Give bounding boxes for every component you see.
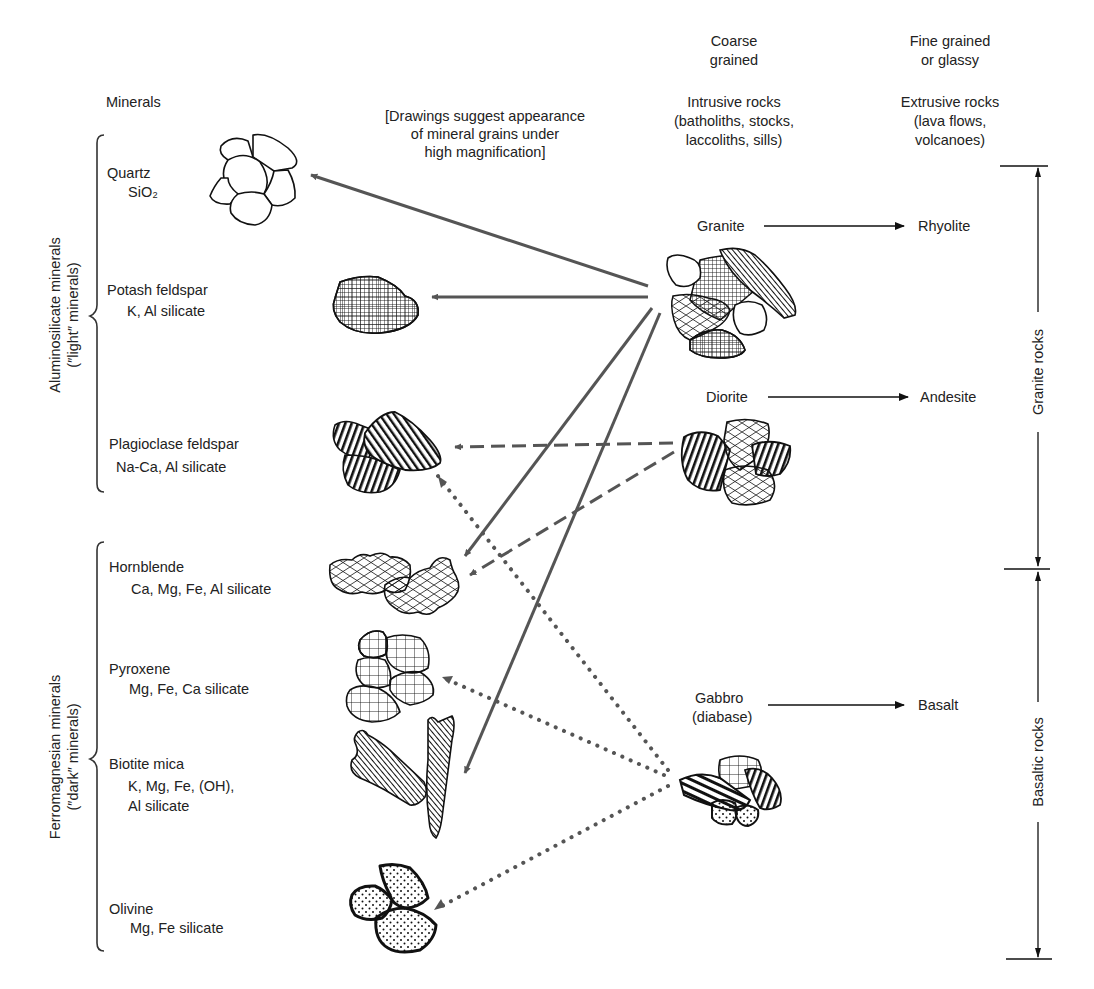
diorite-drawing [682,419,791,504]
svg-text:volcanoes): volcanoes) [915,132,985,148]
svg-text:Potash feldspar: Potash feldspar [107,282,208,298]
svg-text:grained: grained [710,52,758,68]
svg-text:Na-Ca, Al silicate: Na-Ca, Al silicate [116,459,226,475]
svg-text:high magnification]: high magnification] [425,144,546,160]
pyroxene-drawing [346,631,433,722]
svg-text:Intrusive rocks: Intrusive rocks [687,94,780,110]
svg-text:(batholiths, stocks,: (batholiths, stocks, [674,113,794,129]
olivine-drawing [351,864,436,952]
svg-text:Biotite mica: Biotite mica [109,756,185,772]
basaltic-rocks-range: Basaltic rocks [1006,572,1052,959]
biotite-mica-drawing [351,716,454,838]
gabbro-drawing [680,756,781,826]
svg-text:of mineral grains under: of mineral grains under [411,126,559,142]
hornblende-drawing [330,553,459,614]
mineral-olivine: Olivine Mg, Fe silicate [109,901,223,936]
dark-minerals-brace [90,542,104,951]
plagioclase-feldspar-drawing [333,412,440,493]
svg-text:Olivine: Olivine [109,901,153,917]
arrow-diorite-plagioclase [455,443,673,447]
mineral-quartz: Quartz SiO₂ [107,165,158,200]
svg-text:K, Al silicate: K, Al silicate [127,303,205,319]
svg-text:Mg, Fe, Ca silicate: Mg, Fe, Ca silicate [129,681,249,697]
svg-text:(diabase): (diabase) [692,709,752,725]
svg-text:SiO₂: SiO₂ [128,184,158,200]
svg-text:Granite rocks: Granite rocks [1030,329,1046,415]
coarse-grained-header: Coarse grained [710,33,758,68]
light-minerals-group-label: Aluminosilicate minerals (″light″ minera… [47,237,81,393]
minerals-header: Minerals [106,94,161,110]
svg-text:Ferromagnesian minerals: Ferromagnesian minerals [47,675,63,839]
rock-row-diorite: Diorite Andesite [706,389,976,405]
mineral-potash-feldspar: Potash feldspar K, Al silicate [107,282,208,319]
svg-text:Basalt: Basalt [918,697,958,713]
svg-text:Ca, Mg, Fe, Al silicate: Ca, Mg, Fe, Al silicate [131,581,271,597]
svg-text:Quartz: Quartz [107,165,151,181]
svg-text:Fine grained: Fine grained [910,33,991,49]
svg-text:(lava flows,: (lava flows, [914,113,987,129]
granite-rocks-range: Granite rocks [1000,166,1048,566]
quartz-grains-drawing [210,135,297,225]
arrow-granite-quartz [311,175,648,286]
drawings-note: [Drawings suggest appearance of mineral … [385,108,585,160]
svg-text:(″light″ minerals): (″light″ minerals) [65,262,81,367]
mineral-biotite-mica: Biotite mica K, Mg, Fe, (OH), Al silicat… [109,756,234,814]
extrusive-rocks-header: Extrusive rocks (lava flows, volcanoes) [901,94,999,148]
svg-text:Plagioclase feldspar: Plagioclase feldspar [109,436,239,452]
svg-text:(″dark″ minerals): (″dark″ minerals) [65,704,81,811]
svg-text:Rhyolite: Rhyolite [918,218,970,234]
svg-text:Gabbro: Gabbro [695,690,743,706]
potash-feldspar-drawing [333,277,418,334]
svg-text:Basaltic rocks: Basaltic rocks [1030,717,1046,806]
arrow-gabbro-olivine [440,786,668,907]
arrow-granite-hornblende [465,308,652,556]
svg-text:laccoliths, sills): laccoliths, sills) [686,132,783,148]
light-minerals-brace [90,135,104,492]
arrow-granite-biotite [465,313,660,773]
fine-grained-header: Fine grained or glassy [910,33,991,68]
svg-text:Diorite: Diorite [706,389,748,405]
rock-row-granite: Granite Rhyolite [697,218,970,234]
svg-text:Granite: Granite [697,218,745,234]
svg-text:Aluminosilicate minerals: Aluminosilicate minerals [47,237,63,393]
mineral-pyroxene: Pyroxene Mg, Fe, Ca silicate [109,661,249,697]
svg-text:Mg, Fe silicate: Mg, Fe silicate [130,920,223,936]
arrow-gabbro-plagioclase [438,476,668,770]
mineral-plagioclase-feldspar: Plagioclase feldspar Na-Ca, Al silicate [109,436,239,475]
arrow-gabbro-pyroxene [446,679,664,775]
rock-row-gabbro: Gabbro (diabase) Basalt [692,690,958,725]
svg-text:or glassy: or glassy [921,52,980,68]
granite-drawing [667,248,796,358]
mineral-hornblende: Hornblende Ca, Mg, Fe, Al silicate [109,559,271,597]
svg-text:Coarse: Coarse [711,33,758,49]
svg-text:[Drawings suggest appearance: [Drawings suggest appearance [385,108,585,124]
dark-minerals-group-label: Ferromagnesian minerals (″dark″ minerals… [47,675,81,839]
svg-text:Extrusive rocks: Extrusive rocks [901,94,999,110]
mineral-rock-diagram: Minerals [Drawings suggest appearance of… [0,0,1094,989]
svg-text:Hornblende: Hornblende [109,559,184,575]
svg-text:Al silicate: Al silicate [128,798,189,814]
intrusive-rocks-header: Intrusive rocks (batholiths, stocks, lac… [674,94,794,148]
svg-text:Pyroxene: Pyroxene [109,661,170,677]
svg-text:K, Mg, Fe, (OH),: K, Mg, Fe, (OH), [128,778,234,794]
svg-text:Andesite: Andesite [920,389,976,405]
